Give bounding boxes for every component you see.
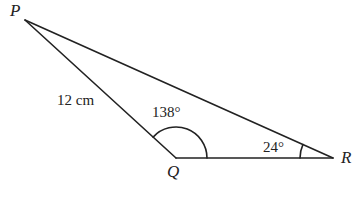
vertex-label-p: P — [10, 2, 20, 19]
angle-label-r: 24° — [263, 140, 284, 155]
side-label-pq: 12 cm — [57, 93, 94, 108]
angle-arc-r — [300, 145, 303, 158]
side-pr — [25, 20, 333, 158]
angle-label-q: 138° — [152, 105, 181, 120]
vertex-label-r: R — [341, 149, 351, 166]
triangle-figure — [0, 0, 359, 197]
angle-arc-q — [153, 127, 207, 158]
vertex-label-q: Q — [167, 163, 179, 180]
triangle-diagram: P Q R 12 cm 138° 24° — [0, 0, 359, 197]
